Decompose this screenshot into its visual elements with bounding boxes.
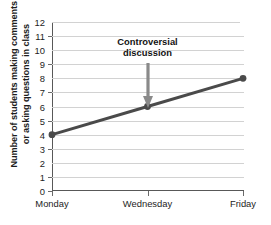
annotation-label-line-1: Controversial — [117, 36, 177, 48]
line-chart: Number of students making comments or as… — [0, 0, 271, 225]
y-axis-tick-label: 10 — [35, 45, 45, 56]
y-axis-tick-label: 9 — [40, 59, 45, 70]
y-axis-tick-label: 8 — [40, 73, 45, 84]
x-axis-tick-label: Wednesday — [123, 198, 172, 209]
y-axis-tick-label: 6 — [40, 101, 45, 112]
y-axis-title-line-1: Number of students making comments — [8, 0, 20, 174]
y-axis-tick-label: 0 — [40, 186, 45, 197]
plot-area: 0123456789101112 MondayWednesdayFriday C… — [52, 22, 244, 191]
data-point-marker — [240, 75, 247, 82]
x-axis-tick — [243, 191, 244, 196]
y-axis-tick-label: 4 — [40, 129, 45, 140]
y-axis-tick-label: 3 — [40, 143, 45, 154]
y-axis-tick-label: 12 — [35, 17, 45, 28]
y-axis-tick-label: 2 — [40, 157, 45, 168]
x-axis-tick-label: Friday — [230, 198, 256, 209]
y-axis-tick-label: 5 — [40, 115, 45, 126]
annotation-label-line-2: discussion — [117, 47, 177, 59]
x-axis-tick — [52, 191, 53, 196]
y-axis-title-line-2: or asking questions in class — [20, 0, 32, 174]
x-axis-tick — [148, 191, 149, 196]
x-axis-tick-label: Monday — [35, 198, 68, 209]
annotation-arrow — [140, 63, 156, 109]
y-axis-tick-label: 1 — [40, 171, 45, 182]
y-axis-title: Number of students making comments or as… — [0, 0, 34, 210]
y-axis-tick-label: 7 — [40, 87, 45, 98]
data-point-marker — [49, 131, 56, 138]
y-axis-tick-label: 11 — [35, 31, 45, 42]
arrow-head — [143, 96, 153, 108]
annotation-label: Controversialdiscussion — [117, 36, 177, 59]
